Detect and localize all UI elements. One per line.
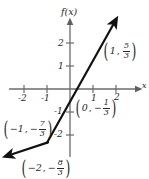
open-paren: ( bbox=[103, 43, 108, 59]
sign: − bbox=[94, 103, 102, 113]
denominator: 3 bbox=[103, 109, 110, 117]
point-label-neg1-neg7-3: ( −1 , − 7 3 ) bbox=[2, 118, 54, 140]
denominator: 3 bbox=[123, 52, 130, 60]
comma: , bbox=[25, 124, 28, 134]
fraction-8-3: 8 3 bbox=[57, 159, 64, 177]
numerator: 1 bbox=[103, 99, 110, 107]
x-tick-label--1: -1 bbox=[41, 94, 50, 103]
close-paren: ) bbox=[131, 43, 136, 59]
point-label-1-5-3: ( 1 , 5 3 ) bbox=[102, 40, 138, 62]
plot-canvas bbox=[0, 0, 149, 179]
x-tick-label--2: -2 bbox=[18, 94, 27, 103]
comma: , bbox=[43, 163, 46, 173]
fraction-7-3: 7 3 bbox=[39, 120, 46, 138]
x-axis-label: x bbox=[142, 82, 147, 90]
denominator: 3 bbox=[57, 169, 64, 177]
fraction-1-3: 1 3 bbox=[103, 99, 110, 117]
point-label-0-neg1-3: ( 0 , − 1 3 ) bbox=[74, 97, 118, 119]
fraction-5-3: 5 3 bbox=[123, 42, 130, 60]
sign: − bbox=[30, 124, 38, 134]
y-tick-label--1: -1 bbox=[54, 107, 63, 116]
curve-shallow-branch bbox=[12, 142, 48, 154]
close-paren: ) bbox=[65, 160, 70, 176]
point-label-neg2-neg8-3: ( −2 , − 8 3 ) bbox=[20, 157, 72, 179]
point-x-value: 0 bbox=[82, 103, 88, 113]
close-paren: ) bbox=[111, 100, 116, 116]
numerator: 7 bbox=[39, 120, 46, 128]
y-tick-label-1: 1 bbox=[58, 62, 64, 71]
y-tick-label--2: -2 bbox=[54, 130, 63, 139]
open-paren: ( bbox=[3, 121, 8, 137]
y-tick-label-2: 2 bbox=[58, 39, 64, 48]
numerator: 5 bbox=[123, 42, 130, 50]
open-paren: ( bbox=[21, 160, 26, 176]
denominator: 3 bbox=[39, 130, 46, 138]
point-x-value: −1 bbox=[10, 124, 24, 134]
function-graph-figure: f(x) x -2 -1 1 2 2 1 -1 -2 ( 1 , 5 3 ) (… bbox=[0, 0, 149, 179]
close-paren: ) bbox=[47, 121, 52, 137]
sign: − bbox=[48, 163, 56, 173]
point-x-value: 1 bbox=[110, 46, 116, 56]
point-x-value: −2 bbox=[28, 163, 42, 173]
y-axis-label: f(x) bbox=[61, 7, 77, 17]
comma: , bbox=[117, 46, 120, 56]
open-paren: ( bbox=[75, 100, 80, 116]
comma: , bbox=[89, 103, 92, 113]
numerator: 8 bbox=[57, 159, 64, 167]
